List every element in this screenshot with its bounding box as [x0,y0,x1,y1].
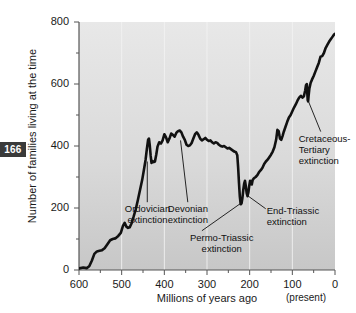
annotation-line: Tertiary [299,144,351,155]
annotation-line: Devonian [168,203,208,214]
annotation-line: Cretaceous- [299,133,351,144]
annotation-end-triassic: End-Triassicextinction [267,205,319,227]
annotation-devonian: Devonianextinction [168,203,208,225]
annotation-line: extinction [125,214,170,225]
x-tick-label: 100 [272,278,312,290]
annotation-permo-triassic: Permo-Triassicextinction [190,232,254,254]
annotation-line: extinction [267,216,319,227]
x-tick-label: 300 [187,278,227,290]
y-tick-label: 600 [33,77,69,89]
annotation-line: extinction [168,214,208,225]
y-tick-label: 0 [33,263,69,275]
annotation-line: Ordovician [125,203,170,214]
y-tick-label: 200 [33,201,69,213]
y-axis-ticks [74,22,79,270]
annotation-ordovician: Ordovicianextinction [125,203,170,225]
annotation-line: Permo-Triassic [190,232,254,243]
y-tick-label: 400 [33,139,69,151]
annotation-line: extinction [299,155,351,166]
y-tick-label: 800 [33,15,69,27]
annotation-cretaceous-tertiary: Cretaceous-Tertiaryextinction [299,133,351,166]
x-tick-label: 600 [59,278,99,290]
x-tick-label: 500 [102,278,142,290]
x-axis-ticks [79,270,335,275]
annotation-line: End-Triassic [267,205,319,216]
x-tick-label: 0 [315,278,355,290]
x-tick-label: 200 [230,278,270,290]
x-tick-label: 400 [144,278,184,290]
extinction-chart-figure: 166 Number of families living at the tim… [0,0,356,313]
annotation-line: extinction [190,243,254,254]
